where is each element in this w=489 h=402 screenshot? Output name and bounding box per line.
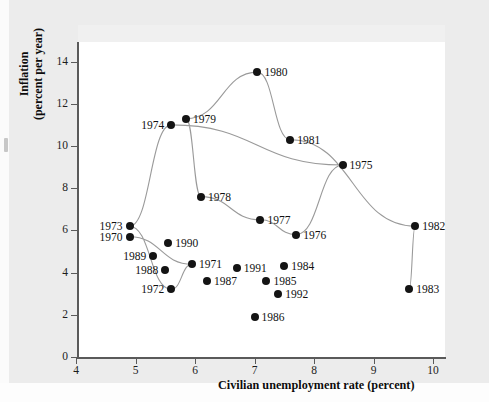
y-axis-tick-label-text: 8 — [46, 181, 68, 193]
y-axis-title: Inflation(percent per year) — [17, 0, 45, 149]
y-axis-tick-label: 8 — [44, 181, 68, 195]
data-point-label: 1978 — [208, 191, 231, 203]
data-point-label: 1988 — [0, 264, 158, 276]
y-axis-tick-label-text: 10 — [46, 139, 68, 151]
data-point-label: 1983 — [416, 283, 439, 295]
x-axis-tick-label: 6 — [183, 364, 207, 376]
data-point-label: 1972 — [0, 283, 164, 295]
data-point-label: 1987 — [214, 275, 237, 287]
data-point-label: 1982 — [422, 220, 445, 232]
data-point-label: 1970 — [0, 231, 123, 243]
data-point-label: 1992 — [285, 288, 308, 300]
plot-canvas — [78, 42, 445, 357]
y-axis-title-line1: Inflation — [17, 0, 31, 149]
y-axis-tick-label: 10 — [44, 139, 68, 153]
data-point — [292, 231, 300, 239]
x-axis-tick-label: 5 — [124, 364, 148, 376]
data-point-label: 1976 — [303, 229, 326, 241]
y-axis-tick-label-text: 2 — [46, 308, 68, 320]
y-axis-tick-label-text: 0 — [46, 350, 68, 362]
y-axis-title-line2: (percent per year) — [31, 0, 45, 149]
x-axis-line — [77, 357, 446, 359]
y-axis-tick — [71, 315, 78, 316]
y-axis-tick-label: 0 — [44, 350, 68, 364]
data-point-label: 1991 — [244, 262, 267, 274]
data-point — [126, 233, 134, 241]
y-axis-tick — [71, 104, 78, 105]
data-point — [339, 161, 347, 169]
data-point — [274, 290, 282, 298]
data-point-label: 1971 — [199, 258, 222, 270]
data-point-label: 1986 — [262, 311, 285, 323]
plot-top-strip — [78, 25, 445, 42]
data-point-label: 1977 — [267, 214, 290, 226]
y-axis-tick — [71, 188, 78, 189]
y-axis-tick — [71, 146, 78, 147]
data-point — [197, 193, 205, 201]
data-point-label: 1984 — [291, 260, 314, 272]
data-point-label: 1981 — [297, 134, 320, 146]
data-point-label: 1980 — [264, 66, 287, 78]
x-axis-title: Civilian unemployment rate (percent) — [218, 378, 414, 393]
y-axis-tick-label-text: 14 — [46, 55, 68, 67]
data-point — [286, 136, 294, 144]
y-axis-tick-label: 2 — [44, 308, 68, 322]
margin-mark-icon — [4, 138, 8, 152]
y-axis-tick — [71, 62, 78, 63]
y-axis-tick-label-text: 12 — [46, 97, 68, 109]
x-axis-tick-label: 8 — [302, 364, 326, 376]
data-point-label: 1985 — [273, 275, 296, 287]
data-point — [126, 222, 134, 230]
chart-page: 02468101214 45678910 1970197119721973197… — [0, 0, 489, 402]
data-point-label: 1979 — [193, 113, 216, 125]
data-point — [203, 277, 211, 285]
y-axis-tick-label: 12 — [44, 97, 68, 111]
x-axis-tick-label: 10 — [421, 364, 445, 376]
data-point — [251, 313, 259, 321]
y-axis-tick-label: 14 — [44, 55, 68, 69]
data-point-label: 1973 — [0, 220, 123, 232]
page-left-margin — [0, 0, 9, 402]
y-axis-line — [77, 42, 79, 358]
data-point-label: 1990 — [175, 237, 198, 249]
x-axis-tick-label: 9 — [362, 364, 386, 376]
x-axis-tick-label: 4 — [64, 364, 88, 376]
data-point-label: 1989 — [0, 250, 146, 262]
data-point-label: 1975 — [350, 159, 373, 171]
x-axis-tick-label: 7 — [243, 364, 267, 376]
data-point — [182, 115, 190, 123]
